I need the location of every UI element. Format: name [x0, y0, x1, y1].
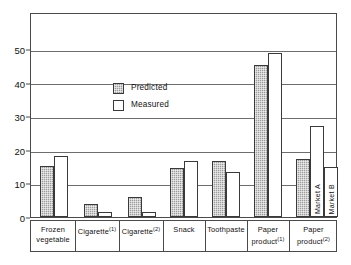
x-label-line1: Paper [258, 225, 278, 234]
y-tick-label-50: 50 [14, 45, 25, 56]
bar-toothpaste-measured [226, 172, 240, 217]
y-axis: 50 40 30 20 10 0 [0, 0, 30, 265]
legend-swatch-predicted-icon [113, 83, 124, 94]
bar-label-market-b: Market B [328, 184, 335, 214]
y-tick-label-30: 30 [14, 112, 25, 123]
y-tick-label-40: 40 [14, 78, 25, 89]
legend-item-measured: Measured [113, 100, 169, 111]
x-label-paper-product-1: Paper product(1) [247, 225, 289, 246]
x-label-line2-text: product [252, 237, 278, 246]
x-label-line1: Frozen [41, 225, 65, 234]
bar-frozen-vegetable-predicted [40, 166, 54, 217]
bar-paper-product-2-market-a: Market A [310, 126, 324, 217]
legend-item-predicted: Predicted [113, 83, 169, 94]
x-label-cigarette-1: Cigarette(1) [75, 225, 119, 237]
bar-snack-predicted [170, 168, 184, 217]
bar-paper-product-2-predicted [296, 159, 310, 217]
x-label-line1: Cigarette [78, 227, 109, 236]
legend-swatch-measured-icon [113, 100, 124, 111]
x-label-cigarette-2: Cigarette(2) [119, 225, 163, 237]
x-label-line1: Snack [173, 225, 194, 234]
y-tick-label-10: 10 [14, 179, 25, 190]
x-label-snack: Snack [163, 225, 205, 235]
y-tick-label-0: 0 [20, 213, 25, 224]
bar-cigarette-1-predicted [84, 204, 98, 217]
bar-chart: 50 40 30 20 10 0 [0, 0, 351, 265]
plot-area: Market A Market B [30, 13, 337, 218]
x-label-paper-product-2: Paper product(2) [289, 225, 338, 246]
x-label-sup: (2) [323, 236, 330, 242]
bars-layer: Market A Market B [31, 14, 336, 217]
bar-label-market-a: Market A [314, 184, 321, 214]
legend-label-measured: Measured [131, 101, 169, 109]
bar-paper-product-1-predicted [254, 65, 268, 217]
x-label-line2: product(2) [289, 235, 338, 247]
x-axis-label-box: Frozen vegetable Cigarette(1) Cigarette(… [30, 220, 337, 252]
x-label-line2: vegetable [31, 235, 75, 245]
x-label-toothpaste: Toothpaste [205, 225, 247, 235]
bar-snack-measured [184, 161, 198, 217]
x-label-sup: (1) [109, 226, 116, 232]
x-label-line1: Cigarette [122, 227, 153, 236]
bar-cigarette-2-predicted [128, 197, 142, 218]
x-label-sup: (1) [277, 236, 284, 242]
bar-paper-product-2-market-b: Market B [324, 167, 338, 217]
bar-paper-product-1-measured [268, 53, 282, 217]
x-label-line1: Paper [303, 225, 323, 234]
bar-frozen-vegetable-measured [54, 156, 68, 218]
x-label-sup: (2) [153, 226, 160, 232]
bar-toothpaste-predicted [212, 161, 226, 217]
x-label-line1: Toothpaste [207, 225, 245, 234]
bar-cigarette-2-measured [142, 212, 156, 217]
y-tick-label-20: 20 [14, 145, 25, 156]
x-label-frozen-vegetable: Frozen vegetable [31, 225, 75, 244]
legend-label-predicted: Predicted [131, 84, 167, 92]
x-label-line2: product(1) [247, 235, 289, 247]
x-label-line2-text: product [297, 237, 323, 246]
bar-cigarette-1-measured [98, 212, 112, 217]
legend: Predicted Measured [113, 83, 169, 117]
